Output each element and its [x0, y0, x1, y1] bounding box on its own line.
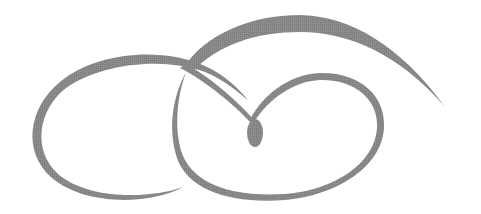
left-loop-shape — [32, 55, 248, 200]
flourish-ornament — [0, 0, 481, 214]
flourish-svg — [0, 0, 481, 214]
center-teardrop-shape — [247, 119, 263, 147]
right-loop-shape — [172, 72, 384, 201]
